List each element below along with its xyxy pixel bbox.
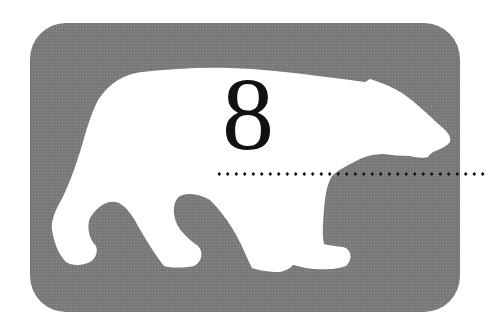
chapter-opener: 8 bbox=[0, 0, 486, 324]
dotted-rule bbox=[215, 172, 486, 176]
chapter-number: 8 bbox=[208, 62, 288, 166]
